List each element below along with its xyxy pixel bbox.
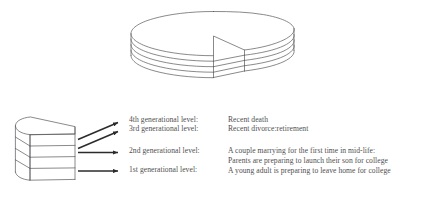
level-label-2: 2nd generational level:: [129, 146, 200, 155]
level-label-3: 3rd generational level:: [129, 124, 198, 133]
level-label-4: 4th generational level:: [129, 115, 198, 124]
event-text-2: Recent divorce:retirement: [228, 124, 308, 133]
event-text-3: A couple marrying for the first time in …: [228, 146, 375, 155]
label-text-layer: 4th generational level: 3rd generational…: [0, 0, 431, 198]
level-label-1: 1st generational level:: [129, 165, 197, 174]
generational-levels-diagram: 4th generational level: 3rd generational…: [0, 0, 431, 198]
event-text-1: Recent death: [228, 115, 268, 124]
event-text-5: A young adult is preparing to leave home…: [228, 166, 391, 175]
event-text-4: Parents are preparing to launch their so…: [228, 156, 388, 165]
